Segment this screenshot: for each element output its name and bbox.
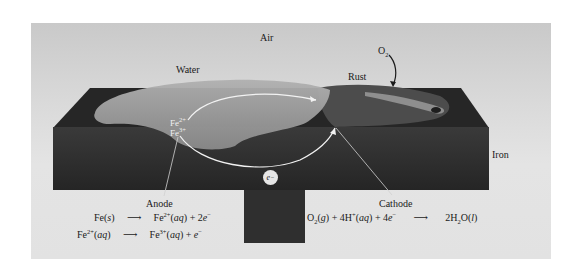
air-label: Air [260, 33, 273, 43]
iron-label: Iron [492, 150, 509, 160]
o2-arrow [389, 55, 396, 85]
anode-label: Anode [146, 199, 173, 209]
electron-badge: e− [263, 170, 278, 185]
fe3-ion-label: Fe3+ [170, 129, 186, 138]
water-label: Water [176, 65, 200, 75]
anode-equation-1: Fe(s) ⟶ Fe2+(aq) + 2e− [94, 213, 211, 223]
rust-label: Rust [348, 72, 366, 82]
cathode-label: Cathode [379, 199, 412, 209]
o2-label: O2 [378, 46, 388, 56]
iron-stand [244, 188, 305, 243]
anode-equation-2: Fe2+(aq) ⟶ Fe3+(aq) + e− [77, 230, 202, 240]
cathode-equation: O2(g) + 4H+(aq) + 4e− ⟶ 2H2O(l) [307, 213, 477, 223]
